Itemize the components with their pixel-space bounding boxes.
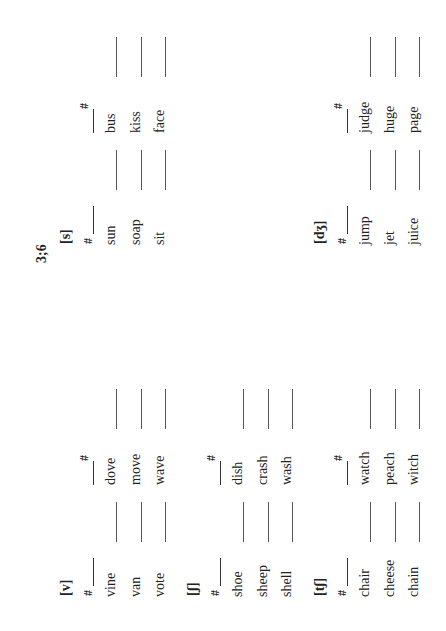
initial-word: jet bbox=[382, 231, 398, 245]
final-position-line bbox=[93, 109, 94, 133]
final-position-marker: # bbox=[330, 103, 346, 109]
final-word: dove bbox=[103, 458, 119, 485]
final-word: crash bbox=[255, 455, 271, 485]
initial-word: chain bbox=[406, 567, 422, 597]
response-blank[interactable] bbox=[243, 389, 244, 429]
initial-position-line bbox=[347, 558, 348, 586]
response-blank[interactable] bbox=[292, 502, 293, 542]
response-blank[interactable] bbox=[141, 389, 142, 429]
response-blank[interactable] bbox=[419, 389, 420, 429]
response-blank[interactable] bbox=[395, 389, 396, 429]
response-blank[interactable] bbox=[419, 150, 420, 190]
initial-position-line bbox=[347, 206, 348, 234]
initial-word: chair bbox=[357, 569, 373, 597]
final-word: page bbox=[406, 107, 422, 133]
response-blank[interactable] bbox=[370, 389, 371, 429]
initial-word: shell bbox=[279, 571, 295, 597]
initial-position-marker: # bbox=[80, 590, 96, 596]
initial-position-marker: # bbox=[334, 590, 350, 596]
final-word: watch bbox=[357, 452, 373, 485]
response-blank[interactable] bbox=[419, 502, 420, 542]
initial-position-marker: # bbox=[80, 238, 96, 244]
response-blank[interactable] bbox=[292, 389, 293, 429]
initial-word: sit bbox=[152, 232, 168, 245]
response-blank[interactable] bbox=[370, 37, 371, 77]
final-word: bus bbox=[103, 114, 119, 133]
initial-word: shoe bbox=[230, 571, 246, 597]
initial-position-marker: # bbox=[334, 238, 350, 244]
response-blank[interactable] bbox=[116, 389, 117, 429]
final-word: peach bbox=[382, 452, 398, 485]
final-word: wash bbox=[279, 456, 295, 485]
initial-word: vote bbox=[152, 573, 168, 597]
response-blank[interactable] bbox=[165, 389, 166, 429]
response-blank[interactable] bbox=[395, 150, 396, 190]
initial-position-line bbox=[220, 558, 221, 586]
section-label-dzh: [dʒ] bbox=[312, 220, 328, 244]
final-word: move bbox=[128, 454, 144, 485]
final-position-line bbox=[220, 461, 221, 485]
final-position-marker: # bbox=[330, 455, 346, 461]
response-blank[interactable] bbox=[165, 502, 166, 542]
section-label-ch: [tʃ] bbox=[312, 578, 328, 596]
section-label-v: [v] bbox=[58, 580, 74, 596]
initial-word: van bbox=[128, 577, 144, 597]
initial-word: jump bbox=[357, 216, 373, 245]
initial-position-marker: # bbox=[207, 590, 223, 596]
response-blank[interactable] bbox=[116, 150, 117, 190]
response-blank[interactable] bbox=[165, 150, 166, 190]
section-label-s: [s] bbox=[58, 229, 74, 244]
final-word: judge bbox=[357, 102, 373, 133]
page-label: 3;6 bbox=[34, 244, 50, 263]
final-word: huge bbox=[382, 106, 398, 133]
response-blank[interactable] bbox=[165, 37, 166, 77]
final-position-line bbox=[93, 461, 94, 485]
response-blank[interactable] bbox=[116, 37, 117, 77]
initial-word: cheese bbox=[382, 560, 398, 597]
final-word: wave bbox=[152, 455, 168, 485]
initial-word: vine bbox=[103, 573, 119, 597]
final-position-line bbox=[347, 109, 348, 133]
response-blank[interactable] bbox=[141, 150, 142, 190]
response-blank[interactable] bbox=[395, 502, 396, 542]
final-position-marker: # bbox=[76, 455, 92, 461]
rotated-page: 3;6[s]##sunbussoapkisssitface[dʒ]##jumpj… bbox=[0, 0, 446, 631]
initial-word: soap bbox=[128, 219, 144, 245]
initial-word: sheep bbox=[255, 565, 271, 597]
final-position-line bbox=[347, 461, 348, 485]
initial-word: juice bbox=[406, 218, 422, 245]
initial-position-line bbox=[93, 206, 94, 234]
response-blank[interactable] bbox=[268, 502, 269, 542]
final-word: face bbox=[152, 110, 168, 133]
response-blank[interactable] bbox=[243, 502, 244, 542]
response-blank[interactable] bbox=[268, 389, 269, 429]
response-blank[interactable] bbox=[395, 37, 396, 77]
response-blank[interactable] bbox=[370, 502, 371, 542]
initial-position-line bbox=[93, 558, 94, 586]
response-blank[interactable] bbox=[141, 502, 142, 542]
final-word: dish bbox=[230, 462, 246, 485]
response-blank[interactable] bbox=[116, 502, 117, 542]
final-word: kiss bbox=[128, 111, 144, 133]
response-blank[interactable] bbox=[370, 150, 371, 190]
initial-word: sun bbox=[103, 226, 119, 245]
final-word: witch bbox=[406, 454, 422, 485]
response-blank[interactable] bbox=[419, 37, 420, 77]
final-position-marker: # bbox=[76, 103, 92, 109]
final-position-marker: # bbox=[203, 455, 219, 461]
section-label-sh: [ʃ] bbox=[185, 582, 201, 596]
response-blank[interactable] bbox=[141, 37, 142, 77]
